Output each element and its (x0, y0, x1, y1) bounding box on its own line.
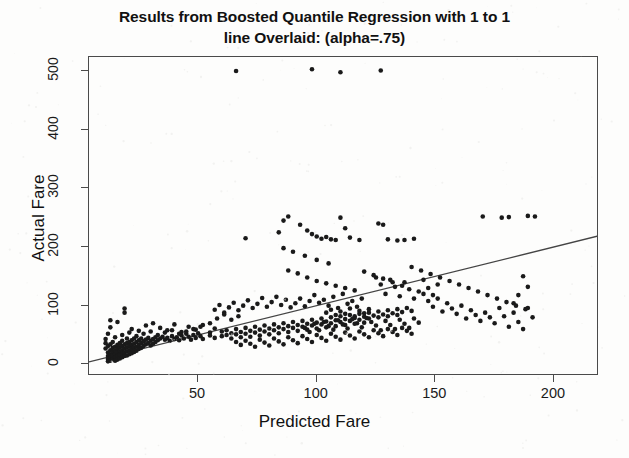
y-tick-label: 0 (45, 342, 61, 382)
scatter-points-layer (89, 57, 597, 374)
y-tick-mark (81, 70, 88, 71)
x-tick-label: 200 (523, 385, 583, 401)
x-tick-label: 150 (404, 385, 464, 401)
x-tick-label: 100 (286, 385, 346, 401)
y-tick-label: 200 (45, 225, 61, 265)
x-tick-mark (553, 375, 554, 382)
chart-title-line-1: Results from Boosted Quantile Regression… (0, 6, 629, 27)
y-tick-mark (81, 363, 88, 364)
x-tick-mark (434, 375, 435, 382)
chart-title: Results from Boosted Quantile Regression… (0, 6, 629, 48)
x-tick-label: 50 (167, 385, 227, 401)
y-tick-label: 500 (45, 49, 61, 89)
y-tick-label: 100 (45, 284, 61, 324)
x-tick-mark (316, 375, 317, 382)
y-tick-mark (81, 246, 88, 247)
y-tick-mark (81, 305, 88, 306)
y-tick-label: 400 (45, 108, 61, 148)
quantile-regression-scatter-figure: Results from Boosted Quantile Regression… (0, 0, 629, 458)
x-axis-title: Predicted Fare (0, 412, 629, 432)
chart-title-line-2: line Overlaid: (alpha=.75) (0, 27, 629, 48)
y-tick-mark (81, 129, 88, 130)
plot-area (89, 57, 597, 374)
plot-frame (88, 56, 598, 375)
y-tick-mark (81, 187, 88, 188)
x-tick-mark (197, 375, 198, 382)
y-tick-label: 300 (45, 166, 61, 206)
